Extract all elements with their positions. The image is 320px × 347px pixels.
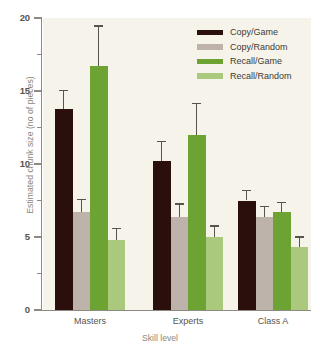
error-bar-cap	[94, 25, 103, 26]
error-bar-cap	[277, 202, 286, 203]
error-bar-cap	[242, 190, 251, 191]
error-bar-cap	[112, 228, 121, 229]
legend-swatch-icon	[197, 73, 223, 79]
bar	[273, 212, 291, 310]
error-bar-cap	[175, 203, 184, 204]
error-bar-cap	[295, 236, 304, 237]
bar	[108, 240, 126, 310]
chart-legend: Copy/GameCopy/RandomRecall/GameRecall/Ra…	[197, 25, 315, 83]
x-tick-label: Experts	[148, 316, 228, 326]
bar	[206, 237, 224, 310]
error-bar-line	[116, 228, 117, 240]
x-axis-spine	[41, 310, 311, 311]
bar	[188, 135, 206, 310]
bar	[90, 66, 108, 310]
y-tick-minor	[37, 200, 43, 201]
error-bar-line	[246, 190, 247, 201]
y-tick-major	[34, 236, 42, 237]
error-bar-line	[179, 203, 180, 216]
bar	[55, 109, 73, 310]
legend-label: Recall/Random	[230, 71, 292, 81]
bar	[73, 212, 91, 310]
legend-swatch-icon	[197, 30, 223, 36]
error-bar-line	[281, 202, 282, 212]
legend-swatch-icon	[197, 59, 223, 65]
legend-item: Copy/Random	[197, 40, 315, 55]
legend-item: Recall/Game	[197, 54, 315, 69]
y-tick-minor	[37, 54, 43, 55]
error-bar-cap	[260, 206, 269, 207]
error-bar-line	[196, 103, 197, 135]
y-tick-label: 20	[4, 12, 30, 23]
y-tick-label: 0	[4, 304, 30, 315]
bar	[256, 217, 274, 310]
error-bar-cap	[192, 103, 201, 104]
error-bar-cap	[157, 141, 166, 142]
y-tick-major	[34, 309, 42, 310]
error-bar-cap	[210, 225, 219, 226]
y-tick-major	[34, 17, 42, 18]
legend-item: Copy/Game	[197, 25, 315, 40]
x-tick-label: Class A	[233, 316, 313, 326]
bar	[153, 161, 171, 310]
legend-swatch-icon	[197, 44, 223, 50]
chart-figure: 05101520 Estimated chunk size (no of pie…	[0, 0, 320, 347]
error-bar-cap	[59, 90, 68, 91]
y-tick-major	[34, 90, 42, 91]
legend-label: Copy/Game	[230, 27, 278, 37]
error-bar-line	[63, 90, 64, 109]
bar	[291, 247, 309, 310]
x-tick-label: Masters	[50, 316, 130, 326]
y-tick-minor	[37, 273, 43, 274]
error-bar-line	[161, 141, 162, 161]
y-axis-title: Estimated chunk size (no of pieces)	[25, 55, 35, 235]
y-tick-minor	[37, 127, 43, 128]
y-tick-major	[34, 163, 42, 164]
error-bar-line	[299, 236, 300, 247]
error-bar-line	[214, 225, 215, 237]
error-bar-line	[98, 25, 99, 66]
legend-label: Copy/Random	[230, 42, 288, 52]
bar	[171, 217, 189, 310]
bar	[238, 201, 256, 311]
x-axis-title: Skill level	[0, 333, 320, 343]
error-bar-cap	[77, 199, 86, 200]
error-bar-line	[81, 199, 82, 212]
error-bar-line	[264, 206, 265, 217]
legend-label: Recall/Game	[230, 56, 282, 66]
legend-item: Recall/Random	[197, 69, 315, 84]
cropped-title-sliver	[95, 0, 275, 4]
